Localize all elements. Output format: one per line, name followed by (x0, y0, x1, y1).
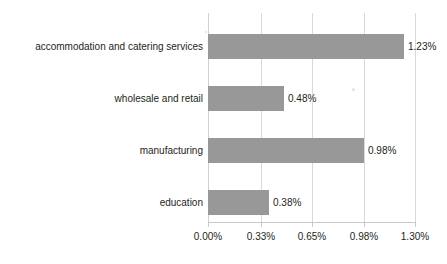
x-tick-mark (312, 222, 313, 227)
x-tick-mark (208, 222, 209, 227)
bar (208, 190, 269, 215)
x-tick-mark (415, 222, 416, 227)
category-label: education (0, 197, 203, 209)
bar-row (208, 34, 415, 59)
value-label: 1.23% (408, 41, 436, 53)
plot-area (208, 13, 415, 222)
value-label: 0.48% (288, 93, 316, 105)
bar (208, 138, 364, 163)
scan-speckle (352, 88, 355, 91)
category-label: accommodation and catering services (0, 41, 203, 53)
value-label: 0.38% (273, 197, 301, 209)
x-tick-mark (261, 222, 262, 227)
x-tick-label: 1.30% (385, 231, 445, 243)
bar-chart: accommodation and catering serviceswhole… (0, 0, 447, 264)
bar (208, 86, 284, 111)
bar (208, 34, 404, 59)
value-label: 0.98% (368, 145, 396, 157)
x-tick-label: 0.00% (178, 231, 238, 243)
bar-row (208, 190, 415, 215)
category-label: manufacturing (0, 145, 203, 157)
scan-speckle (205, 31, 207, 33)
x-tick-mark (364, 222, 365, 227)
x-tick-label: 0.65% (282, 231, 342, 243)
category-label: wholesale and retail (0, 93, 203, 105)
